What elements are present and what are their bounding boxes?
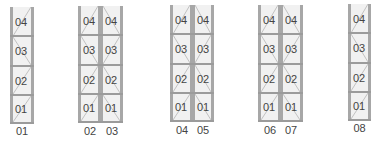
level-label: 01: [353, 100, 365, 112]
level-label: 04: [15, 16, 27, 28]
bay-label: 05: [193, 124, 213, 136]
rack-08: 04 03 02 01: [348, 4, 371, 121]
rack-cell[interactable]: 01: [283, 94, 300, 120]
rack-cell[interactable]: 01: [261, 94, 278, 120]
level-label: 02: [353, 72, 365, 84]
beam: [170, 120, 214, 122]
rack-02-03: 04 03 02 01 04 03 02 01: [78, 6, 123, 123]
level-label: 02: [83, 74, 95, 86]
rack-cell[interactable]: 04: [103, 6, 120, 35]
bay-label: 08: [348, 122, 371, 134]
rack-cell[interactable]: 02: [351, 64, 368, 91]
level-label: 03: [175, 43, 187, 55]
rack-cell[interactable]: 02: [283, 65, 300, 92]
rack-cell[interactable]: 02: [103, 66, 120, 93]
rack-01: 04 03 02 01: [10, 7, 34, 124]
level-label: 04: [105, 15, 117, 27]
level-label: 02: [263, 73, 275, 85]
level-label: 02: [15, 75, 27, 87]
bay-label: 01: [10, 125, 34, 137]
rack-cell[interactable]: 02: [81, 66, 98, 93]
beam: [258, 92, 303, 94]
rack-cell[interactable]: 02: [173, 65, 190, 92]
bay-label: 07: [281, 124, 301, 136]
level-label: 02: [197, 73, 209, 85]
rack-cell[interactable]: 04: [13, 7, 31, 36]
rack-cell[interactable]: 03: [195, 35, 211, 63]
level-label: 02: [175, 73, 187, 85]
rack-cell[interactable]: 04: [283, 5, 300, 34]
rack-cell[interactable]: 01: [13, 96, 31, 122]
level-label: 01: [83, 102, 95, 114]
level-label: 04: [83, 15, 95, 27]
level-label: 04: [197, 14, 209, 26]
bay-label: 03: [102, 125, 122, 137]
rack-cell[interactable]: 04: [173, 5, 190, 34]
rack-cell[interactable]: 02: [261, 65, 278, 92]
beam: [170, 33, 214, 35]
level-label: 03: [285, 43, 297, 55]
rack-06-07: 04 03 02 01 04 03 02 01: [258, 5, 303, 122]
rack-cell[interactable]: 01: [195, 94, 211, 120]
level-label: 03: [353, 42, 365, 54]
beam: [348, 119, 371, 121]
rack-cell[interactable]: 03: [81, 36, 98, 64]
level-label: 04: [175, 14, 187, 26]
bay-label: 02: [80, 125, 100, 137]
level-label: 01: [197, 101, 209, 113]
level-label: 02: [285, 73, 297, 85]
level-label: 03: [83, 44, 95, 56]
beam: [258, 33, 303, 35]
rack-04-05: 04 03 02 01 04 03 02 01: [170, 5, 214, 122]
rack-cell[interactable]: 04: [261, 5, 278, 34]
beam: [78, 121, 123, 123]
level-label: 03: [105, 44, 117, 56]
beam: [170, 92, 214, 94]
level-label: 04: [285, 14, 297, 26]
rack-cell[interactable]: 03: [261, 35, 278, 63]
level-label: 01: [263, 101, 275, 113]
beam: [78, 34, 123, 36]
beam: [258, 63, 303, 65]
rack-cell[interactable]: 01: [103, 95, 120, 121]
rack-cell[interactable]: 04: [195, 5, 211, 34]
level-label: 04: [353, 13, 365, 25]
level-label: 02: [105, 74, 117, 86]
beam: [10, 122, 34, 124]
rack-cell[interactable]: 03: [103, 36, 120, 64]
level-label: 03: [263, 43, 275, 55]
bay-label: 06: [260, 124, 280, 136]
rack-cell[interactable]: 01: [81, 95, 98, 121]
rack-cell[interactable]: 01: [173, 94, 190, 120]
rack-cell[interactable]: 03: [351, 34, 368, 62]
beam: [78, 93, 123, 95]
rack-cell[interactable]: 03: [173, 35, 190, 63]
bay-label: 04: [172, 124, 192, 136]
beam: [170, 63, 214, 65]
level-label: 01: [15, 103, 27, 115]
level-label: 01: [175, 101, 187, 113]
rack-cell[interactable]: 03: [13, 37, 31, 65]
level-label: 01: [285, 101, 297, 113]
rack-cell[interactable]: 03: [283, 35, 300, 63]
rack-cell[interactable]: 02: [195, 65, 211, 92]
rack-cell[interactable]: 04: [81, 6, 98, 35]
level-label: 03: [15, 45, 27, 57]
level-label: 03: [197, 43, 209, 55]
beam: [258, 120, 303, 122]
level-label: 04: [263, 14, 275, 26]
rack-cell[interactable]: 01: [351, 93, 368, 119]
rack-cell[interactable]: 04: [351, 4, 368, 33]
level-label: 01: [105, 102, 117, 114]
rack-cell[interactable]: 02: [13, 67, 31, 94]
beam: [78, 64, 123, 66]
